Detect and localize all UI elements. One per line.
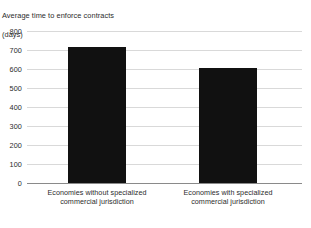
category-label-0: Economies without specializedcommercial … — [27, 188, 167, 207]
category-label-1-line-0: Economies with specialized — [158, 188, 298, 197]
chart-title-line-1: Average time to enforce contracts — [2, 11, 242, 21]
category-label-0-line-1: commercial jurisdiction — [27, 197, 167, 206]
y-axis-tick-label-100: 100 — [0, 161, 22, 168]
chart-container: Average time to enforce contracts (days)… — [0, 0, 311, 228]
category-label-1-line-1: commercial jurisdiction — [158, 197, 298, 206]
axis-baseline — [27, 183, 302, 184]
y-axis-tick-label-400: 400 — [0, 104, 22, 111]
y-axis-tick-label-700: 700 — [0, 47, 22, 54]
y-axis-tick-label-800: 800 — [0, 28, 22, 35]
y-axis-tick-labels: 8007006005004003002001000 — [0, 31, 22, 183]
y-axis-tick-label-500: 500 — [0, 85, 22, 92]
bars-layer — [27, 31, 302, 183]
y-axis-tick-label-0: 0 — [0, 180, 22, 187]
bar-0 — [68, 47, 126, 183]
bar-1 — [199, 68, 257, 183]
category-label-0-line-0: Economies without specialized — [27, 188, 167, 197]
y-axis-tick-label-300: 300 — [0, 123, 22, 130]
category-axis-labels: Economies without specializedcommercial … — [27, 188, 302, 222]
y-axis-tick-label-200: 200 — [0, 142, 22, 149]
y-axis-tick-label-600: 600 — [0, 66, 22, 73]
category-label-1: Economies with specializedcommercial jur… — [158, 188, 298, 207]
